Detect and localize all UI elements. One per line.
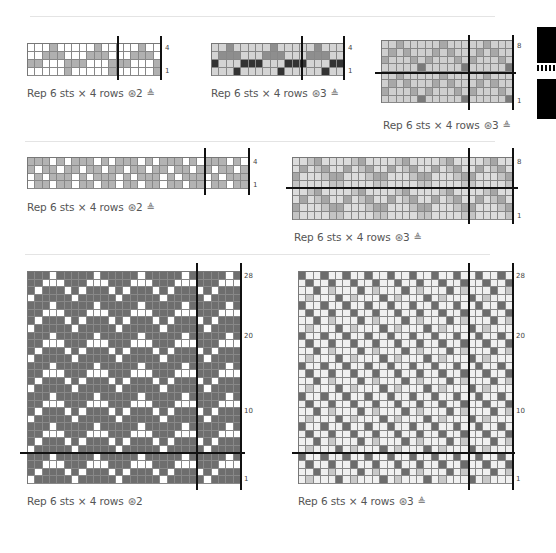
chart-cell bbox=[343, 423, 350, 431]
chart-cell bbox=[424, 476, 431, 484]
chart-cell bbox=[373, 317, 380, 325]
chart-cell bbox=[469, 204, 476, 212]
chart-caption: Rep 6 sts × 4 rows⊛2≜ bbox=[27, 201, 155, 213]
chart-cell bbox=[454, 317, 461, 325]
chart-cell bbox=[182, 385, 189, 393]
chart-cell bbox=[94, 416, 101, 424]
chart-cell bbox=[168, 280, 175, 288]
chart-cell bbox=[373, 280, 380, 288]
chart-cell bbox=[314, 454, 321, 462]
chart-cell bbox=[138, 280, 145, 288]
chart-cell bbox=[476, 355, 483, 363]
chapter-tab-icon[interactable] bbox=[537, 79, 556, 119]
chapter-tab-stripes[interactable] bbox=[537, 27, 556, 63]
chart-cell bbox=[314, 317, 321, 325]
chart-cell bbox=[131, 287, 138, 295]
row-number-label: 1 bbox=[516, 475, 520, 483]
chart-cell bbox=[123, 325, 130, 333]
row-number-label: 4 bbox=[165, 44, 169, 52]
chart-cell bbox=[410, 272, 417, 280]
chart-cell bbox=[116, 333, 123, 341]
chart-cell bbox=[491, 355, 498, 363]
chart-cell bbox=[483, 454, 490, 462]
chart-cell bbox=[402, 272, 409, 280]
chart-cell bbox=[87, 469, 94, 477]
caption-text: Rep 6 sts × 4 rows bbox=[211, 87, 308, 99]
chart-cell bbox=[212, 340, 219, 348]
chart-cell bbox=[336, 272, 343, 280]
chart-cell bbox=[131, 52, 138, 60]
chart-cell bbox=[432, 393, 439, 401]
chart-cell bbox=[212, 325, 219, 333]
chart-cell bbox=[219, 60, 226, 68]
chart-cell bbox=[168, 423, 175, 431]
chart-cell bbox=[28, 272, 35, 280]
chart-cell bbox=[175, 454, 182, 462]
chart-cell bbox=[432, 370, 439, 378]
chart-cell bbox=[197, 385, 204, 393]
chart-cell bbox=[321, 363, 328, 371]
chart-cell bbox=[454, 310, 461, 318]
chart-cell bbox=[336, 385, 343, 393]
chart-cell bbox=[343, 272, 350, 280]
chart-cell bbox=[374, 166, 381, 174]
chart-cell bbox=[404, 88, 411, 96]
chart-cell bbox=[160, 355, 167, 363]
chart-cell bbox=[94, 310, 101, 318]
chart-cell bbox=[321, 280, 328, 288]
chart-cell bbox=[336, 333, 343, 341]
chart-cell bbox=[373, 423, 380, 431]
chart-cell bbox=[447, 469, 454, 477]
chart-cell bbox=[94, 333, 101, 341]
chart-cell bbox=[123, 416, 130, 424]
chart-grid bbox=[27, 157, 249, 189]
chart-cell bbox=[380, 469, 387, 477]
chart-cell bbox=[402, 401, 409, 409]
chart-cell bbox=[102, 60, 109, 68]
caption-text: Rep 6 sts × 4 rows bbox=[294, 231, 391, 243]
chart-cell bbox=[491, 158, 498, 166]
chart-cell bbox=[168, 158, 175, 166]
chart-cell bbox=[306, 287, 313, 295]
chart-cell bbox=[219, 302, 226, 310]
chart-cell bbox=[175, 355, 182, 363]
chart-cell bbox=[358, 317, 365, 325]
chart-cell bbox=[204, 333, 211, 341]
chart-cell bbox=[58, 68, 65, 76]
chart-cell bbox=[491, 454, 498, 462]
chart-cell bbox=[395, 280, 402, 288]
chart-cell bbox=[116, 378, 123, 386]
chart-cell bbox=[293, 44, 300, 52]
chart-cell bbox=[138, 454, 145, 462]
chart-cell bbox=[101, 476, 108, 484]
chart-cell bbox=[285, 60, 292, 68]
chart-cell bbox=[43, 60, 50, 68]
chart-cell bbox=[204, 408, 211, 416]
chart-cell bbox=[365, 438, 372, 446]
chart-cell bbox=[249, 60, 256, 68]
chart-cell bbox=[50, 295, 57, 303]
chart-cell bbox=[395, 469, 402, 477]
chart-cell bbox=[396, 196, 403, 204]
chart-cell bbox=[124, 174, 131, 182]
chart-cell bbox=[168, 370, 175, 378]
chart-cell bbox=[35, 174, 42, 182]
chart-cell bbox=[306, 310, 313, 318]
chart-cell bbox=[426, 96, 433, 104]
chart-cell bbox=[447, 173, 454, 181]
chart-cell bbox=[43, 272, 50, 280]
chart-cell bbox=[79, 454, 86, 462]
chart-cell bbox=[87, 438, 94, 446]
chart-cell bbox=[469, 355, 476, 363]
chart-cell bbox=[440, 41, 447, 49]
chart-cell bbox=[65, 378, 72, 386]
chart-cell bbox=[160, 166, 167, 174]
chart-cell bbox=[50, 68, 57, 76]
chart-cell bbox=[197, 454, 204, 462]
chart-cell bbox=[65, 370, 72, 378]
chart-cell bbox=[72, 408, 79, 416]
chart-cell bbox=[219, 348, 226, 356]
chart-cell bbox=[87, 363, 94, 371]
chart-cell bbox=[50, 340, 57, 348]
chart-cell bbox=[234, 166, 241, 174]
